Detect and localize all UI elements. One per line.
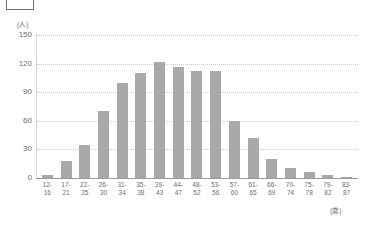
bar-75-78 xyxy=(304,172,315,178)
y-tick-label-120: 120 xyxy=(6,59,32,68)
x-tick-label-75-78: 75-78 xyxy=(300,181,319,197)
bar-series xyxy=(36,35,358,178)
x-tick-label-44-47: 44-47 xyxy=(169,181,188,197)
bar-26-30 xyxy=(98,111,109,178)
bar-61-65 xyxy=(248,138,259,178)
x-tick-label-12-16: 12-16 xyxy=(38,181,57,197)
bar-83-87 xyxy=(341,177,352,178)
cropped-box-outline xyxy=(6,0,34,10)
x-tick-label-35-38: 35-38 xyxy=(132,181,151,197)
bar-slot xyxy=(169,35,188,178)
y-axis-unit-label: (人) xyxy=(17,19,28,29)
bar-44-47 xyxy=(173,67,184,178)
gridline-0 xyxy=(36,178,358,179)
x-tick-label-48-52: 48-52 xyxy=(188,181,207,197)
bar-53-56 xyxy=(210,71,221,178)
bar-slot xyxy=(57,35,76,178)
x-tick-label-66-69: 66-69 xyxy=(262,181,281,197)
y-tick-label-150: 150 xyxy=(6,30,32,39)
bar-12-16 xyxy=(42,175,53,178)
x-tick-label-17-21: 17-21 xyxy=(57,181,76,197)
bar-slot xyxy=(281,35,300,178)
bar-slot xyxy=(206,35,225,178)
bar-slot xyxy=(225,35,244,178)
y-tick-label-30: 30 xyxy=(6,144,32,153)
bar-slot xyxy=(244,35,263,178)
chart-screenshot: (人) 1501209060300 12-1617-2122-2526-3031… xyxy=(0,0,366,228)
x-tick-label-22-25: 22-25 xyxy=(75,181,94,197)
bar-70-74 xyxy=(285,168,296,178)
bar-57-60 xyxy=(229,121,240,178)
bar-66-69 xyxy=(266,159,277,178)
x-tick-label-39-43: 39-43 xyxy=(150,181,169,197)
bar-slot xyxy=(262,35,281,178)
bar-slot xyxy=(75,35,94,178)
x-tick-label-31-34: 31-34 xyxy=(113,181,132,197)
bar-slot xyxy=(337,35,356,178)
x-axis-unit-label: (歳) xyxy=(330,205,341,215)
x-axis-tick-labels: 12-1617-2122-2526-3031-3435-3839-4344-47… xyxy=(36,181,358,197)
bar-79-82 xyxy=(322,175,333,178)
bar-35-38 xyxy=(135,73,146,178)
x-tick-label-83-87: 83-87 xyxy=(337,181,356,197)
bar-slot xyxy=(94,35,113,178)
bar-48-52 xyxy=(191,71,202,178)
x-tick-label-26-30: 26-30 xyxy=(94,181,113,197)
bar-31-34 xyxy=(117,83,128,178)
x-tick-label-70-74: 70-74 xyxy=(281,181,300,197)
bar-slot xyxy=(150,35,169,178)
bar-slot xyxy=(132,35,151,178)
x-tick-label-61-65: 61-65 xyxy=(244,181,263,197)
x-tick-label-53-56: 53-56 xyxy=(206,181,225,197)
y-tick-label-60: 60 xyxy=(6,116,32,125)
bar-slot xyxy=(113,35,132,178)
bar-22-25 xyxy=(79,145,90,178)
bar-slot xyxy=(319,35,338,178)
x-tick-label-57-60: 57-60 xyxy=(225,181,244,197)
bar-39-43 xyxy=(154,62,165,178)
bar-slot xyxy=(188,35,207,178)
bar-slot xyxy=(38,35,57,178)
y-tick-label-90: 90 xyxy=(6,87,32,96)
bar-slot xyxy=(300,35,319,178)
y-tick-label-0: 0 xyxy=(6,173,32,182)
x-tick-label-79-82: 79-82 xyxy=(319,181,338,197)
bar-17-21 xyxy=(61,161,72,178)
